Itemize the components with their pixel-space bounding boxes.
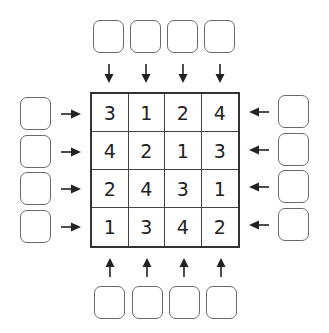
grid-cell[interactable]: 1 — [202, 170, 239, 208]
puzzle-grid: 3 1 2 4 4 2 1 3 2 4 3 1 1 3 4 2 — [90, 92, 240, 248]
arrow-down-icon — [178, 64, 188, 83]
clue-box-top-4[interactable] — [204, 20, 235, 53]
grid-cell[interactable]: 4 — [165, 208, 202, 246]
clue-box-top-2[interactable] — [130, 20, 161, 53]
grid-cell[interactable]: 1 — [129, 94, 166, 132]
clue-box-top-1[interactable] — [93, 20, 124, 53]
arrow-up-icon — [179, 258, 189, 277]
clue-box-left-4[interactable] — [20, 210, 51, 243]
arrow-left-icon — [249, 220, 269, 230]
grid-cell[interactable]: 2 — [92, 170, 129, 208]
grid-cell[interactable]: 3 — [129, 208, 166, 246]
arrow-up-icon — [216, 258, 226, 277]
arrow-up-icon — [105, 258, 115, 277]
arrow-down-icon — [141, 64, 151, 83]
arrow-right-icon — [61, 147, 81, 157]
clue-box-right-2[interactable] — [278, 133, 309, 166]
clue-box-bottom-1[interactable] — [94, 286, 125, 319]
grid-cell[interactable]: 3 — [165, 170, 202, 208]
arrow-down-icon — [104, 64, 114, 83]
grid-cell[interactable]: 4 — [202, 94, 239, 132]
clue-box-left-2[interactable] — [20, 135, 51, 168]
grid-cell[interactable]: 2 — [165, 94, 202, 132]
clue-box-right-4[interactable] — [278, 208, 309, 241]
clue-box-right-1[interactable] — [278, 95, 309, 128]
grid-cell[interactable]: 1 — [165, 132, 202, 170]
arrow-right-icon — [61, 184, 81, 194]
clue-box-top-3[interactable] — [167, 20, 198, 53]
grid-cell[interactable]: 1 — [92, 208, 129, 246]
clue-box-left-3[interactable] — [20, 172, 51, 205]
arrow-left-icon — [249, 182, 269, 192]
clue-box-bottom-2[interactable] — [132, 286, 163, 319]
arrow-up-icon — [142, 258, 152, 277]
arrow-right-icon — [61, 109, 81, 119]
clue-box-bottom-4[interactable] — [206, 286, 237, 319]
clue-box-right-3[interactable] — [278, 170, 309, 203]
arrow-left-icon — [249, 145, 269, 155]
arrow-down-icon — [215, 64, 225, 83]
clue-box-bottom-3[interactable] — [169, 286, 200, 319]
clue-box-left-1[interactable] — [20, 97, 51, 130]
grid-cell[interactable]: 2 — [202, 208, 239, 246]
grid-cell[interactable]: 3 — [202, 132, 239, 170]
grid-cell[interactable]: 4 — [92, 132, 129, 170]
grid-cell[interactable]: 3 — [92, 94, 129, 132]
grid-cell[interactable]: 2 — [129, 132, 166, 170]
arrow-left-icon — [249, 107, 269, 117]
arrow-right-icon — [61, 222, 81, 232]
grid-cell[interactable]: 4 — [129, 170, 166, 208]
